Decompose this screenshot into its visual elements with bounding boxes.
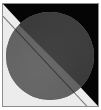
figure-frame [2,3,99,107]
centered-circle [6,12,94,100]
figure-canvas [0,0,101,110]
